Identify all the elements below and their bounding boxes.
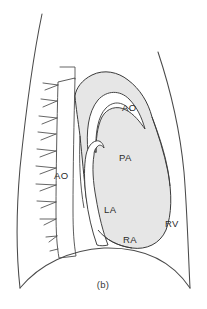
figure-container: AO PA AO LA RV RA (b) [0,0,207,309]
label-right-ventricle: RV [165,218,179,229]
label-pulmonary-artery: PA [119,152,132,163]
label-descending-aorta: AO [54,170,69,181]
label-left-atrium: LA [104,204,117,215]
label-right-atrium: RA [123,234,137,245]
figure-caption: (b) [97,279,110,290]
label-aortic-arch: AO [122,102,137,113]
lateral-chest-diagram: AO PA AO LA RV RA (b) [0,0,207,309]
